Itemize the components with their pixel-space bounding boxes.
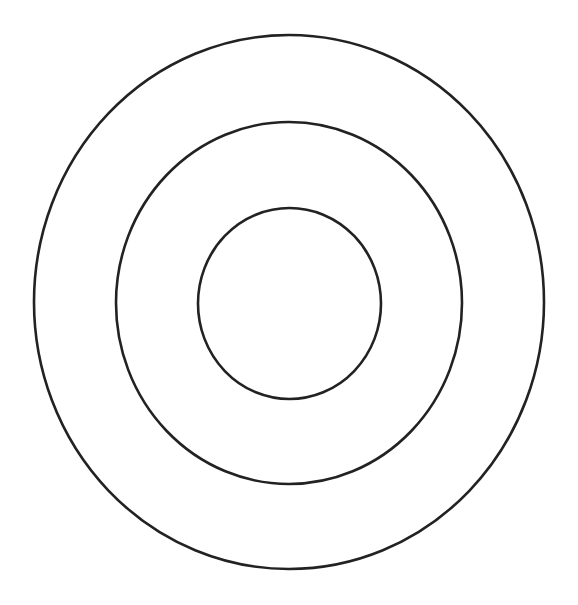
inner-ring — [198, 208, 381, 399]
rings-graphic — [0, 0, 578, 605]
concentric-rings-diagram — [0, 0, 578, 605]
middle-ring — [116, 122, 462, 484]
outer-ring — [34, 35, 544, 569]
